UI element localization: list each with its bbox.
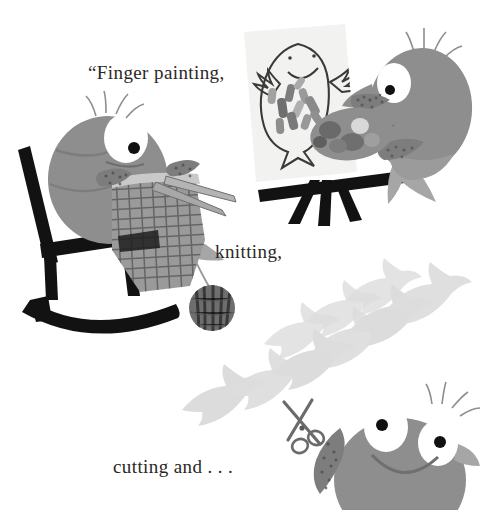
- scissors: [284, 400, 326, 455]
- painting-fish-pupil: [385, 85, 395, 95]
- knitting-fish: [44, 91, 236, 334]
- cutting-fish: [284, 382, 480, 510]
- painting-fish-body: [362, 43, 478, 177]
- cutting-fish-pupil-left: [376, 419, 388, 431]
- illustration-page: “Finger painting, knitting, cutting and …: [0, 0, 480, 510]
- knitting-fish-eye-white: [104, 113, 148, 163]
- knitting-fish-hair: [86, 91, 144, 118]
- chair-rear-leg: [44, 256, 58, 300]
- cutting-fish-hair: [426, 382, 480, 416]
- yarn-strand: [196, 262, 210, 288]
- cutting-fish-pupil-right: [434, 436, 446, 448]
- drawn-fish-eye: [312, 54, 316, 58]
- caption-finger-painting: “Finger painting,: [88, 62, 225, 84]
- yarn-ball: [189, 283, 236, 334]
- scissors-pivot: [299, 425, 304, 430]
- knitting-fish-pupil: [128, 142, 140, 154]
- paper-fish-chain: [182, 258, 472, 426]
- caption-cutting: cutting and . . .: [113, 456, 233, 478]
- caption-knitting: knitting,: [215, 241, 282, 263]
- drawn-fish-eye: [288, 56, 292, 60]
